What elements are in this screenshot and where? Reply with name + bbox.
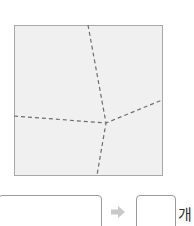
expression-input-box[interactable] [0,195,102,226]
arrow-right-icon [111,206,125,218]
unit-label: 개 [178,203,192,224]
count-input-box[interactable] [136,195,176,226]
square [15,26,163,176]
square-figure [0,0,194,190]
